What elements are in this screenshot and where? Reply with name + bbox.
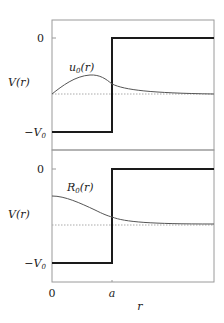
bottom-panel: 0 −V0 V(r) R0(r): [8, 150, 214, 282]
bottom-ytick-well: −V0: [24, 257, 46, 271]
top-potential-well: [52, 38, 214, 132]
x-axis: 0 a r: [49, 280, 144, 313]
top-panel: 0 −V0 V(r) u0(r): [8, 20, 214, 150]
bottom-ytick-zero: 0: [37, 163, 44, 176]
bottom-radial-function-curve: [52, 196, 214, 224]
top-wavefunction-curve: [52, 75, 214, 94]
bottom-ylabel: V(r): [8, 208, 30, 221]
x-tick-label-zero: 0: [49, 287, 56, 300]
square-well-diagram: 0 −V0 V(r) u0(r) 0 −V0 V(r) R0(r) 0 a r: [0, 0, 224, 323]
x-tick-label-a: a: [109, 287, 116, 300]
top-ytick-zero: 0: [37, 32, 44, 45]
bottom-potential-well: [52, 169, 214, 263]
top-ytick-well: −V0: [24, 126, 46, 140]
bottom-curve-label: R0(r): [66, 181, 94, 195]
x-axis-label: r: [137, 300, 143, 313]
top-panel-frame: [52, 20, 214, 150]
top-ylabel: V(r): [8, 76, 30, 89]
top-curve-label: u0(r): [69, 61, 94, 75]
